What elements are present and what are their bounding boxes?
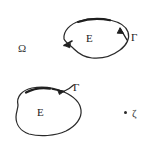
label-region-e-top: E [86,33,93,44]
closed-contour-top [64,19,129,59]
label-contour-gamma-top: Γ [131,32,137,43]
contour-path-bottom [16,87,81,135]
closed-contour-bottom [16,85,81,136]
contour-ink-thick-top [78,19,110,22]
label-point-zeta: ζ [132,108,137,119]
figure-canvas [0,0,150,149]
point-zeta-dot [124,111,127,114]
arrowhead-top-right [117,28,127,40]
label-domain-omega: Ω [18,43,26,54]
arrowhead-bottom-top [52,89,65,95]
label-contour-gamma-bottom: Γ [73,82,79,93]
math-figure: Ω E Γ E Γ ζ [0,0,150,149]
label-region-e-bottom: E [37,107,44,118]
contour-path-top [64,19,129,59]
